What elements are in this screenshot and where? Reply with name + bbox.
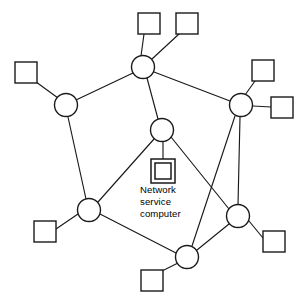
node-lower-right[interactable] bbox=[227, 205, 250, 228]
terminal-lower-right[interactable] bbox=[263, 231, 285, 252]
terminal-right-middle[interactable] bbox=[271, 97, 293, 118]
node-lower-left[interactable] bbox=[78, 199, 101, 222]
network-service-computer-label-line-3: computer bbox=[140, 208, 181, 219]
node-left[interactable] bbox=[55, 94, 78, 117]
node-center[interactable] bbox=[151, 119, 174, 142]
network-service-computer-inner bbox=[155, 163, 171, 179]
terminal-left[interactable] bbox=[15, 62, 37, 83]
node-right[interactable] bbox=[230, 94, 253, 117]
node-top[interactable] bbox=[132, 56, 155, 79]
terminal-bottom[interactable] bbox=[141, 270, 163, 291]
network-diagram-canvas: Networkservicecomputer bbox=[0, 0, 305, 307]
server-layer bbox=[151, 159, 175, 183]
node-bottom[interactable] bbox=[176, 246, 199, 269]
network-service-computer-label-line-2: service bbox=[140, 196, 171, 207]
diagram-background bbox=[0, 0, 305, 307]
terminal-lower-left[interactable] bbox=[34, 221, 56, 242]
network-diagram: Networkservicecomputer bbox=[0, 0, 305, 307]
network-service-computer-label-line-1: Network bbox=[140, 184, 176, 195]
terminal-right-upper[interactable] bbox=[252, 60, 274, 81]
terminal-top-left[interactable] bbox=[138, 13, 160, 34]
terminal-top-right[interactable] bbox=[176, 13, 198, 34]
